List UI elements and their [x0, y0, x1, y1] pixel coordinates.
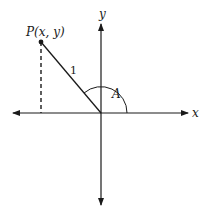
- angle-label: A: [111, 87, 121, 101]
- unit-circle-angle-diagram: P(x, y) 1 A x y: [0, 0, 211, 220]
- y-axis-label: y: [98, 7, 106, 21]
- x-axis-label: x: [192, 106, 199, 120]
- segment-length-label: 1: [70, 64, 77, 77]
- point-label: P(x, y): [25, 25, 65, 39]
- point-p-dot: [39, 40, 44, 45]
- radius-segment: [41, 42, 101, 113]
